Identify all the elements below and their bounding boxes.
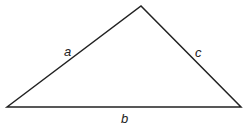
side-c-label: c (195, 45, 202, 60)
side-a-label: a (64, 44, 71, 59)
side-b-label: b (121, 111, 128, 126)
triangle-shape (7, 6, 241, 107)
triangle-diagram: a c b (0, 0, 247, 130)
